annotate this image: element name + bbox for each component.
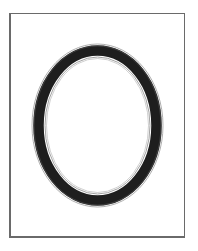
ring-band <box>39 51 157 201</box>
ring-inner-outline-2 <box>47 59 149 193</box>
ring-inner-outline <box>45 57 150 194</box>
ring-outer-outline <box>32 44 163 207</box>
oval-ring-graphic <box>0 0 198 251</box>
